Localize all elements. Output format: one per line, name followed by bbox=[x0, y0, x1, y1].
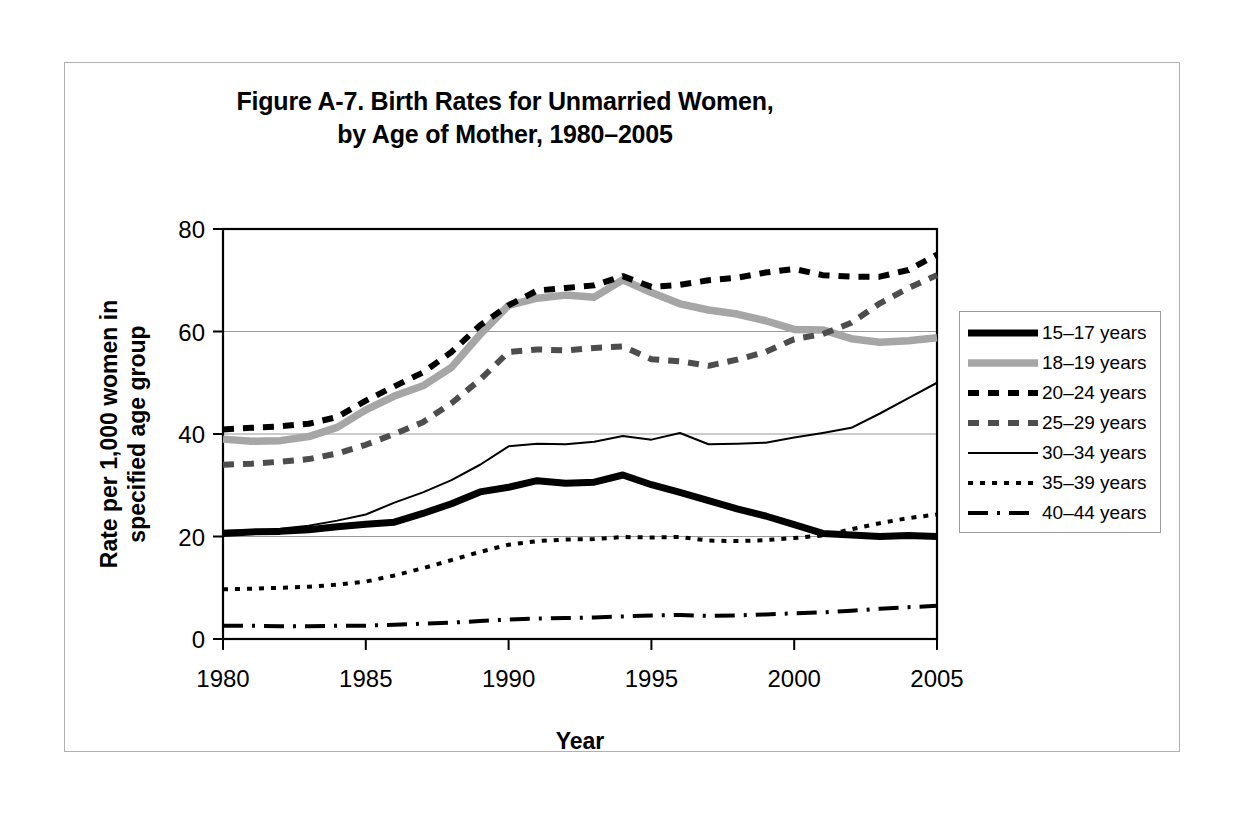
y-tick-label: 0 bbox=[192, 626, 205, 653]
y-tick-label: 80 bbox=[178, 216, 205, 243]
legend-item[interactable]: 30–34 years bbox=[960, 438, 1160, 468]
x-tick-label: 1985 bbox=[339, 665, 392, 692]
series-line bbox=[223, 475, 937, 537]
legend-swatch-20-24-icon bbox=[966, 384, 1040, 402]
legend-swatch-35-39-icon bbox=[966, 474, 1040, 492]
x-tick-label: 1980 bbox=[196, 665, 249, 692]
legend-item[interactable]: 15–17 years bbox=[960, 318, 1160, 348]
x-tick-label: 1995 bbox=[625, 665, 678, 692]
x-tick-label: 2000 bbox=[768, 665, 821, 692]
x-axis-title: Year bbox=[556, 728, 605, 753]
legend-swatch-25-29-icon bbox=[966, 414, 1040, 432]
legend-swatch-15-17-icon bbox=[966, 324, 1040, 342]
legend-label: 15–17 years bbox=[1040, 322, 1147, 344]
legend-item[interactable]: 18–19 years bbox=[960, 348, 1160, 378]
y-tick-label: 40 bbox=[178, 421, 205, 448]
legend-swatch-30-34-icon bbox=[966, 444, 1040, 462]
legend-item[interactable]: 20–24 years bbox=[960, 378, 1160, 408]
legend-label: 35–39 years bbox=[1040, 472, 1147, 494]
y-axis-title-line-2: specified age group bbox=[124, 325, 150, 542]
y-tick-label: 20 bbox=[178, 524, 205, 551]
legend-label: 40–44 years bbox=[1040, 502, 1147, 524]
legend-item[interactable]: 25–29 years bbox=[960, 408, 1160, 438]
legend-label: 20–24 years bbox=[1040, 382, 1147, 404]
legend-label: 25–29 years bbox=[1040, 412, 1147, 434]
legend-swatch-40-44-icon bbox=[966, 504, 1040, 522]
legend: 15–17 years 18–19 years 20–24 years 25–2… bbox=[959, 311, 1161, 533]
series-line bbox=[223, 255, 937, 430]
y-tick-label: 60 bbox=[178, 319, 205, 346]
x-tick-label: 1990 bbox=[482, 665, 535, 692]
legend-item[interactable]: 35–39 years bbox=[960, 468, 1160, 498]
x-tick-label: 2005 bbox=[910, 665, 963, 692]
figure-container: Figure A-7. Birth Rates for Unmarried Wo… bbox=[64, 62, 1180, 752]
gridlines bbox=[223, 229, 937, 537]
y-axis-title-line-1: Rate per 1,000 women in bbox=[96, 300, 122, 568]
legend-label: 18–19 years bbox=[1040, 352, 1147, 374]
legend-swatch-18-19-icon bbox=[966, 354, 1040, 372]
series-line bbox=[223, 606, 937, 627]
legend-label: 30–34 years bbox=[1040, 442, 1147, 464]
legend-item[interactable]: 40–44 years bbox=[960, 498, 1160, 528]
data-series-group bbox=[223, 255, 937, 627]
series-line bbox=[223, 275, 937, 465]
